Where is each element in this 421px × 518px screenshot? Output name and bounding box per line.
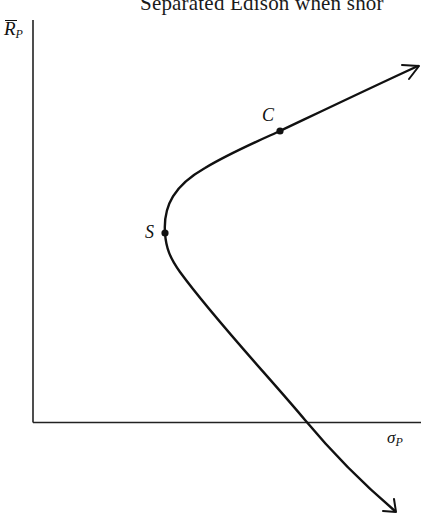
- frontier-lower-branch: [165, 233, 395, 511]
- point-c-marker: [276, 127, 283, 134]
- point-s-marker: [161, 229, 168, 236]
- overbar: [5, 20, 17, 21]
- frontier-diagram: [0, 0, 421, 518]
- point-s-label: S: [145, 222, 154, 243]
- y-axis-label: RP: [4, 18, 23, 42]
- x-axis-label: σP: [387, 428, 403, 450]
- y-axis-label-main: R: [4, 18, 16, 39]
- x-axis-label-sub: P: [395, 435, 402, 449]
- point-c-label: C: [262, 105, 274, 126]
- y-axis-label-sub: P: [16, 27, 23, 41]
- frontier-upper-branch: [165, 66, 418, 233]
